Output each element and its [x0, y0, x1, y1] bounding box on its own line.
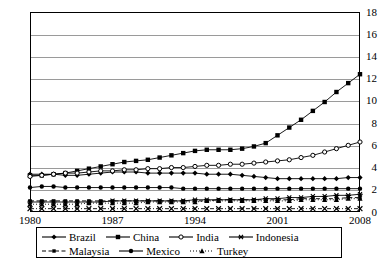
y-tick-label: 6 [351, 140, 377, 151]
legend-label: China [133, 231, 159, 243]
x-tick-label: 1987 [91, 215, 135, 226]
legend-marker-circle-icon [118, 245, 144, 257]
legend-label: Malaysia [69, 245, 109, 257]
legend-marker-square-small-icon [41, 245, 67, 257]
y-tick-label: 18 [351, 7, 377, 18]
series-other [28, 206, 363, 211]
series-china [28, 72, 362, 178]
legend-row-1: BrazilChinaIndiaIndonesia [41, 230, 337, 244]
chart-legend: BrazilChinaIndiaIndonesia MalaysiaMexico… [36, 227, 342, 258]
legend-label: Turkey [217, 245, 248, 257]
y-tick-label: 16 [351, 29, 377, 40]
legend-row-2: MalaysiaMexicoTurkey [41, 244, 337, 258]
legend-marker-triangle-icon [189, 245, 215, 257]
y-tick-label: 12 [351, 73, 377, 84]
line-chart-canvas [30, 12, 360, 212]
legend-item-china[interactable]: China [105, 231, 159, 243]
x-tick-label: 1994 [173, 215, 217, 226]
legend-item-turkey[interactable]: Turkey [189, 245, 248, 257]
y-tick-label: 14 [351, 51, 377, 62]
legend-marker-star-icon [228, 231, 254, 243]
legend-label: Indonesia [256, 231, 299, 243]
legend-item-malaysia[interactable]: Malaysia [41, 245, 109, 257]
legend-item-indonesia[interactable]: Indonesia [228, 231, 299, 243]
series-mexico [28, 184, 362, 191]
y-tick-label: 4 [351, 162, 377, 173]
legend-label: Mexico [146, 245, 180, 257]
x-tick-label: 2001 [256, 215, 300, 226]
x-tick-label: 1980 [8, 215, 52, 226]
legend-label: India [196, 231, 219, 243]
y-tick-label: 8 [351, 118, 377, 129]
legend-item-mexico[interactable]: Mexico [118, 245, 180, 257]
legend-marker-circle-open-icon [168, 231, 194, 243]
x-tick-label: 2008 [338, 215, 382, 226]
legend-marker-diamond-icon [41, 231, 67, 243]
legend-marker-square-icon [105, 231, 131, 243]
y-tick-label: 10 [351, 95, 377, 106]
legend-label: Brazil [69, 231, 96, 243]
legend-item-brazil[interactable]: Brazil [41, 231, 96, 243]
legend-item-india[interactable]: India [168, 231, 219, 243]
y-tick-label: 2 [351, 184, 377, 195]
